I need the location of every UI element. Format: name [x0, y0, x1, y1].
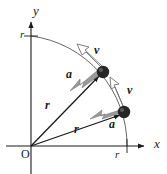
- acceleration-label-lower: a: [109, 118, 115, 130]
- radius-vector-upper: [31, 76, 99, 146]
- x-axis-tick-label: r: [115, 149, 119, 160]
- velocity-vector-lower: [110, 77, 124, 108]
- particle-highlight-upper: [99, 68, 103, 72]
- velocity-label-upper: v: [94, 44, 99, 56]
- y-axis-label: y: [33, 4, 39, 17]
- particle-dot-lower: [118, 106, 130, 118]
- acceleration-label-upper: a: [66, 68, 72, 80]
- particle-dot-upper: [97, 66, 109, 78]
- acceleration-vector-upper: [70, 70, 101, 91]
- particle-highlight-lower: [120, 108, 124, 112]
- x-axis-label: x: [154, 137, 160, 150]
- radius-label-lower: r: [74, 123, 79, 135]
- origin-label: O: [21, 148, 30, 160]
- velocity-label-lower: v: [127, 84, 132, 96]
- velocity-vector-upper: [77, 44, 104, 70]
- radius-label-upper: r: [45, 99, 50, 111]
- acceleration-vector-lower: [90, 110, 121, 119]
- physics-diagram-circular-motion: y x O r r r r v a v a: [0, 0, 167, 174]
- y-axis-tick-label: r: [20, 29, 24, 40]
